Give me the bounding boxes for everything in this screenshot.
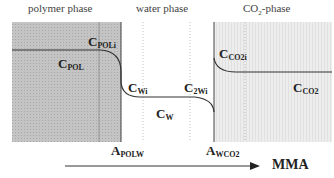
c-2wi-label: C2Wi [184,80,207,96]
polymer-phase-label: polymer phase [28,2,92,14]
water-phase-label: water phase [136,2,188,14]
co2-phase-label: CO2-phase [243,2,291,17]
diagram-canvas [0,0,334,178]
c-co2i-label: CCO2i [219,46,247,62]
c-w-label: CW [156,106,173,122]
mma-axis-label: MMA [272,157,309,173]
c-wi-label: CWi [128,80,147,96]
a-polw-label: APOLW [111,143,144,159]
mma-arrow-head [250,162,260,170]
c-co2-label: CCO2 [293,80,318,96]
c-pol-label: CPOL [58,56,84,72]
a-wco2-label: AWCO2 [206,143,239,159]
c-poli-label: CPOLi [88,34,116,50]
